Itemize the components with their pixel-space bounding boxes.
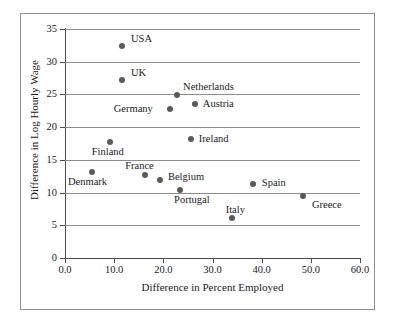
gridline [65, 29, 360, 30]
y-tick-mark [60, 225, 65, 226]
gridline [65, 62, 360, 63]
x-tick-mark [65, 258, 66, 263]
y-axis-title: Difference in Log Hourly Wage [28, 35, 40, 225]
data-point-marker[interactable] [177, 187, 183, 193]
x-tick-mark [114, 258, 115, 263]
y-tick-mark [60, 29, 65, 30]
x-tick-label: 40.0 [245, 264, 279, 276]
y-tick-mark [60, 160, 65, 161]
data-point-marker[interactable] [142, 172, 148, 178]
x-tick-label: 50.0 [294, 264, 328, 276]
data-point-label: Netherlands [183, 81, 234, 92]
data-point-marker[interactable] [119, 43, 125, 49]
data-point-marker[interactable] [250, 181, 256, 187]
scatter-chart-figure: 05101520253035 0.010.020.030.040.050.060… [0, 0, 396, 325]
x-tick-mark [213, 258, 214, 263]
data-point-label: Ireland [199, 133, 229, 144]
data-point-marker[interactable] [188, 136, 194, 142]
data-point-label: Finland [92, 146, 124, 157]
gridline [65, 193, 360, 194]
x-axis-title: Difference in Percent Employed [65, 281, 360, 293]
data-point-marker[interactable] [192, 101, 198, 107]
y-tick-mark [60, 193, 65, 194]
x-tick-mark [311, 258, 312, 263]
y-tick-mark [60, 94, 65, 95]
data-point-marker[interactable] [107, 139, 113, 145]
x-tick-label: 20.0 [146, 264, 180, 276]
y-tick-mark [60, 127, 65, 128]
data-point-label: Spain [262, 177, 286, 188]
y-tick-label: 35 [31, 23, 57, 34]
gridline [65, 127, 360, 128]
x-tick-label: 30.0 [196, 264, 230, 276]
x-tick-mark [163, 258, 164, 263]
data-point-marker[interactable] [167, 106, 173, 112]
y-tick-mark [60, 62, 65, 63]
y-tick-label: 0 [31, 252, 57, 263]
data-point-marker[interactable] [157, 177, 163, 183]
data-point-label: Portugal [174, 194, 210, 205]
x-tick-mark [262, 258, 263, 263]
data-point-label: Belgium [168, 171, 204, 182]
data-point-label: Greece [312, 199, 342, 210]
x-tick-label: 60.0 [343, 264, 377, 276]
data-point-label: France [125, 160, 154, 171]
x-tick-label: 10.0 [97, 264, 131, 276]
data-point-label: USA [131, 33, 152, 44]
data-point-marker[interactable] [229, 215, 235, 221]
data-point-label: UK [131, 67, 146, 78]
x-tick-mark [360, 258, 361, 263]
data-point-marker[interactable] [300, 193, 306, 199]
data-point-label: Italy [226, 204, 245, 215]
x-tick-label: 0.0 [48, 264, 82, 276]
data-point-label: Austria [203, 98, 234, 109]
gridline [65, 160, 360, 161]
gridline [65, 225, 360, 226]
gridline [65, 94, 360, 95]
data-point-label: Germany [114, 103, 153, 114]
data-point-label: Denmark [68, 176, 107, 187]
